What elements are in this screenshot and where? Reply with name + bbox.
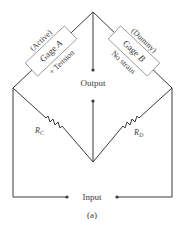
right-input-rail	[117, 88, 172, 197]
resistor-rd-arm	[93, 88, 172, 162]
input-label: Input	[83, 192, 102, 202]
center-terminal-dot	[91, 99, 94, 102]
output-terminal-dot	[91, 68, 94, 71]
gage-a-box: Gage A (Active) + Tension	[18, 19, 84, 84]
output-label: Output	[80, 78, 106, 88]
resistor-rc-arm	[13, 88, 93, 162]
wheatstone-bridge-diagram: Gage A (Active) + Tension Gage B (Dummy)…	[0, 0, 185, 227]
left-input-rail	[13, 88, 67, 197]
input-terminal-right-dot	[115, 195, 118, 198]
resistor-rc-label: RC	[34, 126, 45, 136]
figure-caption: (a)	[87, 210, 97, 220]
input-terminal-left-dot	[65, 195, 68, 198]
resistor-rd-label: RD	[133, 128, 144, 138]
